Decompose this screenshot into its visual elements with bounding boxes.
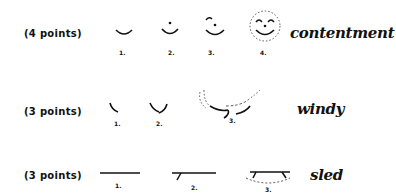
smile-nose-eye-step3-icon (202, 14, 228, 40)
row1-step1-number: 1. (119, 49, 125, 56)
smiley-face-step4-icon (248, 9, 282, 43)
smile-nose-step2-icon (160, 19, 180, 39)
row2-points-label: (3 points) (24, 106, 82, 117)
row1-points-label: (4 points) (24, 28, 82, 39)
row2-word: windy (297, 100, 344, 118)
smile-step1-icon (114, 26, 134, 38)
sled-runner-step1-icon (98, 170, 142, 176)
row1-step4-number: 4. (260, 49, 266, 56)
row3-step3-number: 3. (265, 186, 271, 193)
row2-step3-number: 3. (229, 117, 235, 124)
row2-step2-number: 2. (156, 120, 162, 127)
row1-word: contentment (290, 24, 394, 42)
sled-runner-leg-step2-icon (170, 170, 218, 184)
row3-step1-number: 1. (115, 182, 121, 189)
row3-points-label: (3 points) (24, 170, 82, 181)
wind-strokes-step2-icon (148, 101, 170, 117)
row1-step2-number: 2. (168, 49, 174, 56)
row3-word: sled (310, 166, 343, 184)
sled-complete-step3-icon (242, 168, 292, 188)
wind-stroke-step1-icon (108, 101, 122, 115)
row1-step3-number: 3. (208, 49, 214, 56)
row2-step1-number: 1. (114, 120, 120, 127)
row3-step2-number: 2. (191, 184, 197, 191)
